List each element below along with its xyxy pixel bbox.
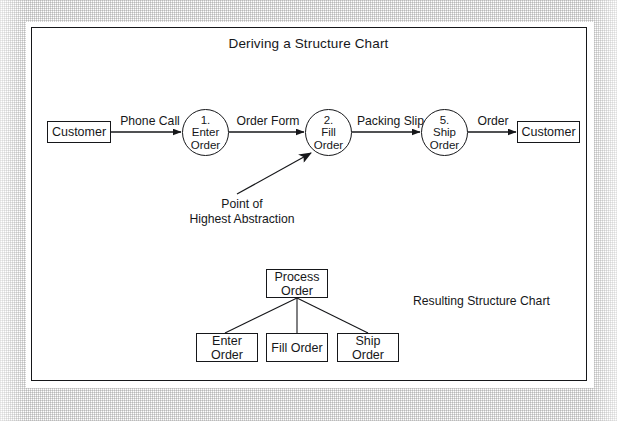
module-ship-order: Ship Order: [337, 333, 399, 362]
structure-chart-caption: Resulting Structure Chart: [413, 294, 550, 308]
flow-label-packing-slip: Packing Slip: [352, 114, 429, 128]
external-entity-customer-sink: Customer: [517, 121, 580, 143]
figure-title: Deriving a Structure Chart: [0, 36, 617, 51]
external-entity-customer-source: Customer: [47, 121, 111, 143]
process-2-fill-order: 2. Fill Order: [305, 109, 352, 156]
flow-label-order: Order: [468, 114, 518, 128]
callout-point-of-highest-abstraction: Point of Highest Abstraction: [172, 197, 312, 226]
module-process-order: Process Order: [266, 269, 328, 298]
module-fill-order: Fill Order: [266, 333, 328, 362]
module-enter-order: Enter Order: [196, 333, 258, 362]
process-1-enter-order: 1. Enter Order: [182, 109, 229, 156]
flow-label-order-form: Order Form: [233, 114, 303, 128]
figure-root: Deriving a Structure Chart Customer Phon…: [0, 0, 617, 421]
process-5-ship-order: 5. Ship Order: [421, 109, 468, 156]
flow-label-phone-call: Phone Call: [116, 114, 184, 128]
